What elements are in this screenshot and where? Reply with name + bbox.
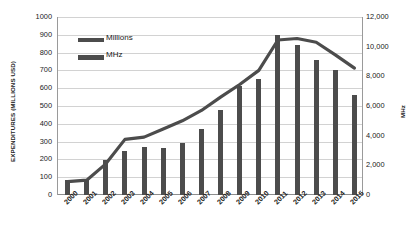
y-axis-left-ticks: 01002003004005006007008009001000 <box>20 0 54 241</box>
y-axis-right-tick: 2,000 <box>366 161 385 168</box>
y-axis-left-tick: 0 <box>48 191 52 198</box>
y-axis-left-tick: 100 <box>40 173 52 180</box>
y-axis-left-tick: 900 <box>40 31 52 38</box>
y-axis-right-title: MHz <box>399 82 406 142</box>
legend-label-mhz: MHz <box>106 50 122 59</box>
y-axis-right-tick: 10,000 <box>366 43 389 50</box>
x-axis-labels: 2000200120022003200420052006200720082009… <box>57 196 363 241</box>
y-axis-left-tick: 300 <box>40 138 52 145</box>
y-axis-right-tick: 8,000 <box>366 72 385 79</box>
y-axis-right-tick: 6,000 <box>366 102 385 109</box>
y-axis-right-tick: 4,000 <box>366 132 385 139</box>
chart-container: EXPENDITURES (MILLIONS USD) MHz 01002003… <box>0 0 420 241</box>
line-series-mhz <box>58 17 364 195</box>
y-axis-left-tick: 800 <box>40 49 52 56</box>
y-axis-left-tick: 1000 <box>36 13 52 20</box>
legend-label-millions: Millions <box>106 33 133 42</box>
legend-bar-swatch-icon <box>78 38 104 42</box>
y-axis-left-tick: 600 <box>40 84 52 91</box>
y-axis-left-tick: 400 <box>40 120 52 127</box>
plot-area <box>57 17 363 195</box>
y-axis-left-title: EXPENDITURES (MILLIONS USD) <box>9 56 16 168</box>
y-axis-right-tick: 12,000 <box>366 13 389 20</box>
y-axis-left-tick: 500 <box>40 102 52 109</box>
y-axis-right-tick: 0 <box>366 191 370 198</box>
y-axis-left-tick: 700 <box>40 66 52 73</box>
legend-line-swatch-icon <box>78 55 104 60</box>
y-axis-left-tick: 200 <box>40 155 52 162</box>
y-axis-right-ticks: 02,0004,0006,0008,00010,00012,000 <box>364 0 398 241</box>
